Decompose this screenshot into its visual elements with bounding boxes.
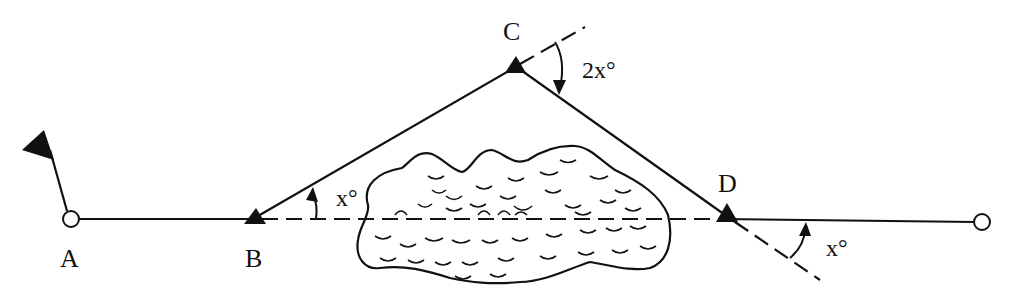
- label-b: B: [245, 244, 262, 273]
- line-d-end: [720, 219, 975, 222]
- lake-obstacle: [357, 146, 670, 283]
- line-b-c: [258, 68, 514, 216]
- survey-diagram: A B C D x° 2x° x°: [0, 0, 1012, 305]
- angle-label-c: 2x°: [582, 57, 616, 83]
- angle-label-d: x°: [826, 235, 848, 261]
- station-a-circle: [63, 211, 79, 227]
- line-c-d: [518, 68, 735, 222]
- label-a: A: [60, 244, 79, 273]
- angle-arc-b: [306, 187, 318, 219]
- station-end-circle: [974, 214, 990, 230]
- label-c: C: [503, 17, 520, 46]
- angle-label-b: x°: [336, 185, 358, 211]
- station-c-triangle: [505, 56, 526, 73]
- station-d-triangle: [716, 203, 738, 222]
- angle-arc-c: [553, 42, 566, 95]
- angle-arc-d: [790, 222, 811, 258]
- line-c-extension: [520, 27, 585, 64]
- label-d: D: [718, 169, 737, 198]
- station-b-triangle: [244, 208, 266, 224]
- flag-icon: [22, 130, 67, 211]
